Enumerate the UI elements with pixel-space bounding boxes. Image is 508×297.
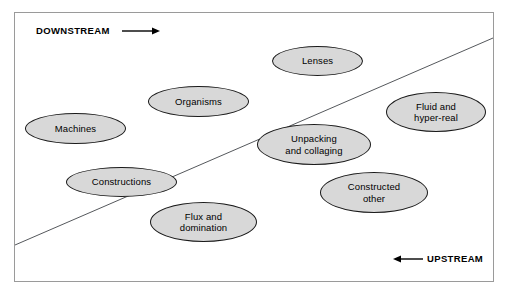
diagram-canvas: DOWNSTREAM UPSTREAM Machines Organisms L…: [0, 0, 508, 297]
node-flux-and-domination[interactable]: Flux and domination: [150, 202, 257, 242]
node-constructions[interactable]: Constructions: [66, 167, 177, 197]
axis-label-downstream: DOWNSTREAM: [36, 25, 110, 36]
node-lenses[interactable]: Lenses: [272, 46, 363, 76]
node-unpacking-and-collaging[interactable]: Unpacking and collaging: [257, 124, 371, 165]
node-organisms[interactable]: Organisms: [148, 86, 249, 117]
downstream-arrow-icon: [122, 27, 160, 34]
node-constructed-other[interactable]: Constructed other: [320, 172, 428, 213]
node-machines[interactable]: Machines: [25, 113, 126, 144]
upstream-arrow-icon: [393, 255, 423, 262]
axis-label-upstream: UPSTREAM: [427, 253, 483, 264]
node-fluid-and-hyper-real[interactable]: Fluid and hyper-real: [386, 92, 486, 132]
